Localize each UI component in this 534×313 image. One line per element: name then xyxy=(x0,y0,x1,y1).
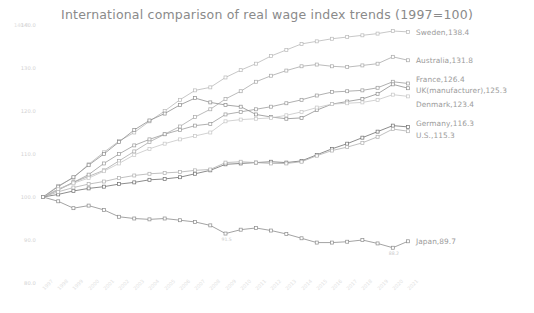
y-axis-tick-label: 130.0 xyxy=(0,65,36,71)
series-marker xyxy=(361,136,364,139)
series-marker xyxy=(133,217,136,220)
series-marker xyxy=(270,105,273,108)
series-marker xyxy=(72,186,75,189)
series-marker xyxy=(330,103,333,106)
series-marker xyxy=(300,237,303,240)
plot-area: 140.0130.0120.0110.0100.090.080.0 199719… xyxy=(40,25,460,283)
series-marker xyxy=(391,246,394,249)
series-end-label: Germany,116.3 xyxy=(416,119,474,128)
series-marker xyxy=(346,240,349,243)
series-marker xyxy=(407,95,410,98)
series-marker xyxy=(163,133,166,136)
series-marker xyxy=(270,54,273,57)
series-marker xyxy=(346,142,349,145)
series-marker xyxy=(209,131,212,134)
series-end-label: Australia,131.8 xyxy=(416,56,473,65)
series-marker xyxy=(148,119,151,122)
series-marker xyxy=(239,69,242,72)
series-marker xyxy=(376,92,379,95)
series-marker xyxy=(102,180,105,183)
series-marker xyxy=(224,161,227,164)
series-marker xyxy=(178,128,181,131)
series-marker xyxy=(315,63,318,66)
series-end-label: France,126.4 xyxy=(416,75,465,84)
series-marker xyxy=(315,154,318,157)
series-marker xyxy=(133,150,136,153)
series-marker xyxy=(102,185,105,188)
series-marker xyxy=(102,170,105,173)
point-value-label: 88.2 xyxy=(389,251,399,256)
series-marker xyxy=(239,228,242,231)
series-marker xyxy=(163,112,166,115)
series-marker xyxy=(133,174,136,177)
series-marker xyxy=(224,76,227,79)
series-marker xyxy=(163,177,166,180)
series-marker xyxy=(194,97,197,100)
series-marker xyxy=(87,183,90,186)
series-marker xyxy=(270,74,273,77)
series-marker xyxy=(254,80,257,83)
series-marker xyxy=(102,208,105,211)
series-marker xyxy=(285,117,288,120)
series-marker xyxy=(285,114,288,117)
series-marker xyxy=(376,86,379,89)
series-marker xyxy=(87,177,90,180)
series-marker xyxy=(315,94,318,97)
series-marker xyxy=(87,164,90,167)
series-marker xyxy=(346,90,349,93)
series-marker xyxy=(330,241,333,244)
y-axis-tick-label: 100.0 xyxy=(0,194,36,200)
series-marker xyxy=(72,182,75,185)
series-marker xyxy=(300,98,303,101)
series-marker xyxy=(330,37,333,40)
series-marker xyxy=(391,124,394,127)
series-marker xyxy=(407,59,410,62)
series-marker xyxy=(391,93,394,96)
series-marker xyxy=(239,90,242,93)
series-marker xyxy=(57,190,60,193)
series-end-label: U.S.,115.3 xyxy=(416,131,455,140)
series-marker xyxy=(361,64,364,67)
series-marker xyxy=(254,161,257,164)
series-marker xyxy=(148,138,151,141)
series-marker xyxy=(407,240,410,243)
series-marker xyxy=(148,218,151,221)
series-marker xyxy=(57,200,60,203)
series-marker xyxy=(254,226,257,229)
series-marker xyxy=(224,97,227,100)
series-marker xyxy=(224,232,227,235)
series-marker xyxy=(178,125,181,128)
series-marker xyxy=(254,117,257,120)
chart-container: International comparison of real wage in… xyxy=(0,0,534,313)
series-marker xyxy=(178,219,181,222)
series-marker xyxy=(178,138,181,141)
series-marker xyxy=(346,36,349,39)
series-marker xyxy=(361,101,364,104)
series-marker xyxy=(87,187,90,190)
series-marker xyxy=(330,91,333,94)
series-marker xyxy=(194,220,197,223)
series-marker xyxy=(209,86,212,89)
series-marker xyxy=(330,149,333,152)
series-marker xyxy=(72,207,75,210)
series-marker xyxy=(194,172,197,175)
series-end-label: Sweden,138.4 xyxy=(416,28,469,37)
series-marker xyxy=(300,110,303,113)
y-axis-tick-label: 110.0 xyxy=(0,151,36,157)
series-marker xyxy=(133,153,136,156)
series-marker xyxy=(42,196,45,199)
series-marker xyxy=(148,178,151,181)
series-end-label: Japan,89.7 xyxy=(416,237,456,246)
series-marker xyxy=(224,120,227,123)
series-marker xyxy=(254,113,257,116)
series-marker xyxy=(209,224,212,227)
series-marker xyxy=(163,142,166,145)
series-marker xyxy=(285,232,288,235)
series-end-label: UK(manufacturer),125.3 xyxy=(416,86,507,95)
series-marker xyxy=(148,172,151,175)
series-marker xyxy=(102,162,105,165)
series-marker xyxy=(178,171,181,174)
series-marker xyxy=(133,128,136,131)
series-marker xyxy=(239,160,242,163)
series-marker xyxy=(209,101,212,104)
